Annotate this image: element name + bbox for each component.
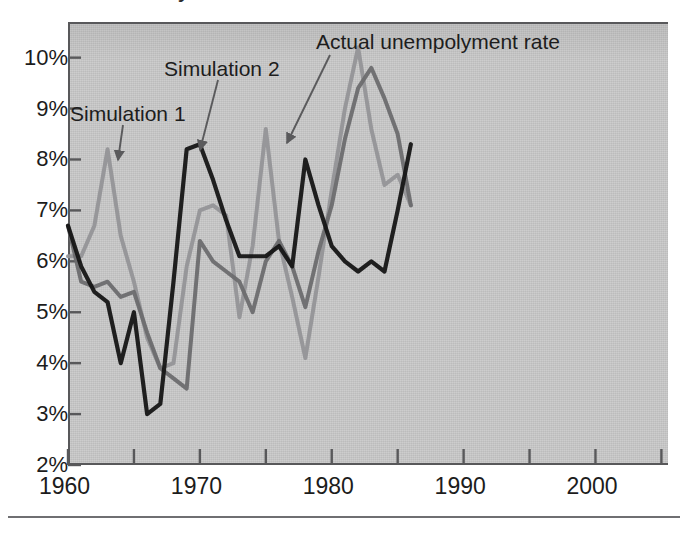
annotation-label-simulation-1: Simulation 1 — [70, 102, 186, 126]
annotation-arrow-simulation-1 — [118, 125, 123, 160]
footer-divider — [8, 516, 680, 518]
series-layer — [0, 0, 688, 534]
series-line — [68, 144, 411, 414]
series-line — [68, 47, 411, 368]
annotation-arrow-actual-unemployment — [287, 55, 330, 143]
annotation-label-actual-unemployment: Actual unempolyment rate — [316, 30, 560, 54]
unemployment-simulation-chart: y 10%9%8%7%6%5%4%3%2% 196019701980199020… — [0, 0, 688, 534]
annotation-label-simulation-2: Simulation 2 — [164, 57, 280, 81]
annotation-arrow-simulation-2 — [200, 80, 218, 150]
